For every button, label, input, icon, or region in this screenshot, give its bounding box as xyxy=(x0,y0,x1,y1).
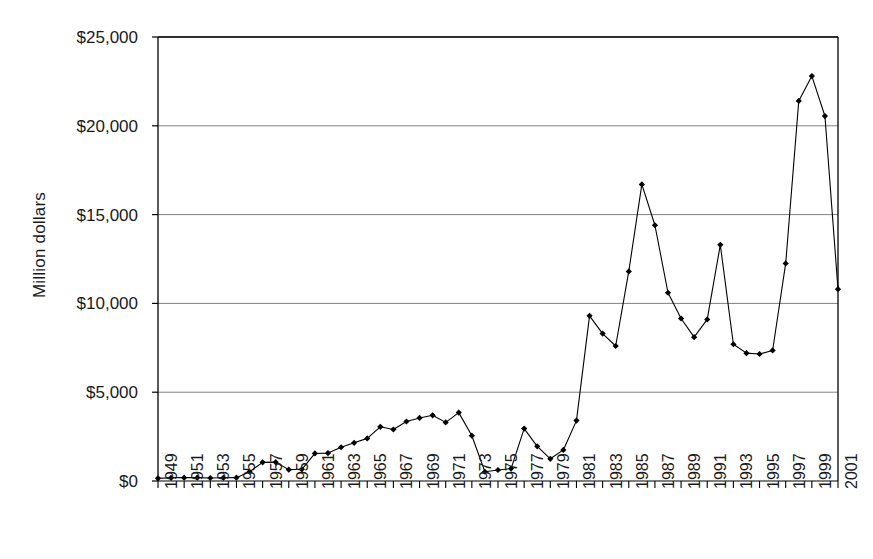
x-tick-label: 1979 xyxy=(556,453,572,489)
x-tick-label: 1969 xyxy=(426,453,442,489)
x-tick-label: 1981 xyxy=(582,453,598,489)
x-tick-label: 1949 xyxy=(164,453,180,489)
x-tick-label: 1999 xyxy=(818,453,834,489)
x-tick-label: 1967 xyxy=(399,453,415,489)
x-tick-label: 1977 xyxy=(530,453,546,489)
x-tick-label: 1963 xyxy=(347,453,363,489)
x-tick-label: 2001 xyxy=(844,453,860,489)
x-tick-label: 1951 xyxy=(190,453,206,489)
x-tick-label: 1957 xyxy=(269,453,285,489)
x-tick-label: 1955 xyxy=(242,453,258,489)
x-tick-label: 1959 xyxy=(295,453,311,489)
x-tick-label: 1989 xyxy=(687,453,703,489)
x-tick-label: 1991 xyxy=(713,453,729,489)
x-tick-label: 1961 xyxy=(321,453,337,489)
x-axis-tick-labels: 1949195119531955195719591961196319651967… xyxy=(0,0,873,559)
x-tick-label: 1985 xyxy=(635,453,651,489)
x-tick-label: 1993 xyxy=(739,453,755,489)
x-tick-label: 1983 xyxy=(609,453,625,489)
x-tick-label: 1965 xyxy=(373,453,389,489)
x-tick-label: 1971 xyxy=(452,453,468,489)
x-tick-label: 1975 xyxy=(504,453,520,489)
x-tick-label: 1953 xyxy=(216,453,232,489)
chart-container: Million dollars $0$5,000$10,000$15,000$2… xyxy=(0,0,873,559)
x-tick-label: 1997 xyxy=(792,453,808,489)
x-tick-label: 1973 xyxy=(478,453,494,489)
x-tick-label: 1987 xyxy=(661,453,677,489)
x-tick-label: 1995 xyxy=(766,453,782,489)
